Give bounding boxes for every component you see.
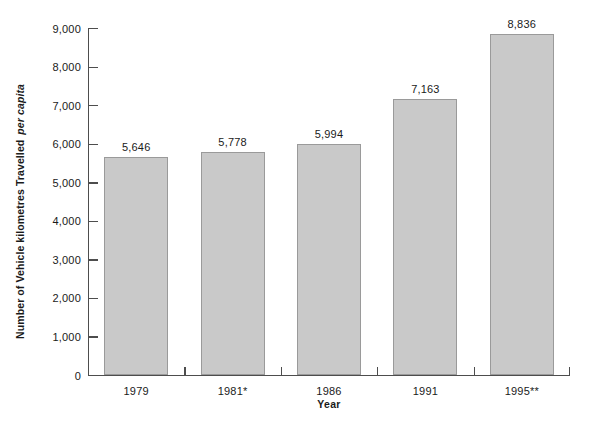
y-axis-tick-label: 5,000 <box>52 177 81 189</box>
bar: 8,836 <box>490 34 554 375</box>
y-axis-tick: 0 <box>89 375 98 376</box>
bar-value-label: 5,646 <box>122 141 151 153</box>
x-axis-tick <box>569 367 570 376</box>
x-axis-category-label: 1986 <box>316 385 341 397</box>
x-axis-tick <box>474 367 475 376</box>
x-axis-tick <box>184 367 185 376</box>
y-axis-tick: 8,000 <box>89 67 98 68</box>
y-axis-tick: 7,000 <box>89 105 98 106</box>
y-axis-tick: 5,000 <box>89 182 98 183</box>
y-axis-tick: 9,000 <box>89 28 98 29</box>
bar: 5,778 <box>201 152 265 375</box>
bar-value-label: 5,778 <box>218 136 247 148</box>
y-axis-tick-label: 6,000 <box>52 138 81 150</box>
y-axis-title-emphasis: per capita <box>14 84 26 135</box>
x-axis-line <box>88 375 570 376</box>
y-axis-title-main: Number of Vehicle kilometres Travelled <box>14 140 26 339</box>
x-axis-title: Year <box>88 398 570 410</box>
bar: 5,646 <box>104 157 168 375</box>
bar-chart-figure: Number of Vehicle kilometres Travelled p… <box>0 0 598 423</box>
y-axis-line <box>88 28 89 375</box>
y-axis-tick-label: 2,000 <box>52 292 81 304</box>
y-axis-title: Number of Vehicle kilometres Travelled p… <box>0 0 40 423</box>
bar-value-label: 8,836 <box>508 18 537 30</box>
y-axis-tick: 2,000 <box>89 298 98 299</box>
y-axis-tick-label: 1,000 <box>52 331 81 343</box>
y-axis-tick-label: 0 <box>75 370 81 382</box>
y-axis-tick-label: 7,000 <box>52 100 81 112</box>
y-axis-tick-label: 4,000 <box>52 215 81 227</box>
y-axis-tick-label: 3,000 <box>52 254 81 266</box>
x-axis-category-label: 1981* <box>218 385 248 397</box>
bar-value-label: 7,163 <box>411 83 440 95</box>
y-axis-tick: 3,000 <box>89 259 98 260</box>
x-axis-tick <box>377 367 378 376</box>
y-axis-tick: 1,000 <box>89 336 98 337</box>
bar-value-label: 5,994 <box>315 128 344 140</box>
x-axis-category-label: 1979 <box>124 385 149 397</box>
y-axis-tick-label: 9,000 <box>52 23 81 35</box>
x-axis-category-label: 1995** <box>505 385 539 397</box>
plot-area: 01,0002,0003,0004,0005,0006,0007,0008,00… <box>88 28 570 375</box>
y-axis-tick: 4,000 <box>89 221 98 222</box>
x-axis-tick <box>281 367 282 376</box>
bar: 5,994 <box>297 144 361 375</box>
bar: 7,163 <box>393 99 457 375</box>
y-axis-tick: 6,000 <box>89 144 98 145</box>
y-axis-tick-label: 8,000 <box>52 61 81 73</box>
x-axis-category-label: 1991 <box>413 385 438 397</box>
